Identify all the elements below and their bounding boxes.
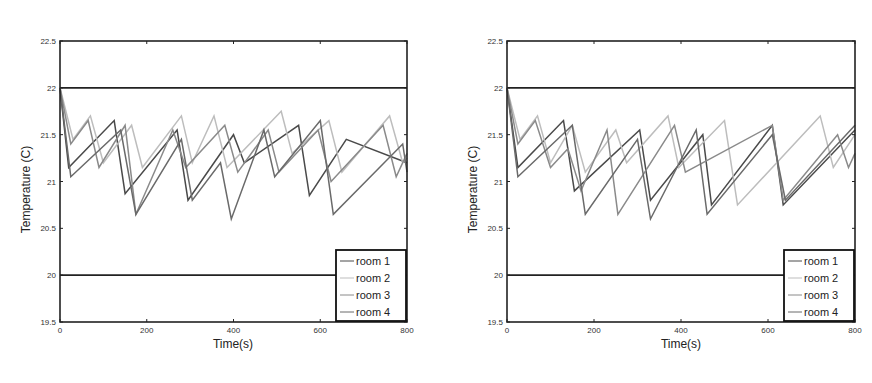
chart-canvas: 19.52020.52121.52222.50200400600800Time(… — [0, 0, 872, 383]
legend-item-label: room 3 — [804, 289, 838, 301]
legend-item-label: room 1 — [804, 255, 838, 267]
x-tick-label: 0 — [505, 326, 510, 335]
y-tick-label: 20 — [494, 271, 503, 280]
y-tick-label: 22.5 — [487, 37, 503, 46]
x-tick-label: 800 — [848, 326, 862, 335]
legend: room 1room 2room 3room 4 — [784, 250, 854, 321]
x-tick-label: 400 — [674, 326, 688, 335]
y-tick-label: 20.5 — [487, 224, 503, 233]
series-line-room-2 — [507, 88, 855, 205]
legend-item-label: room 4 — [804, 306, 838, 318]
legend-item-label: room 2 — [804, 272, 838, 284]
x-tick-label: 600 — [761, 326, 775, 335]
x-tick-label: 200 — [587, 326, 601, 335]
y-axis-label: Temperature (C) — [466, 146, 480, 233]
right-temperature-chart: 19.52020.52121.52222.50200400600800Time(… — [0, 0, 436, 383]
y-tick-label: 19.5 — [487, 318, 503, 327]
y-tick-label: 21.5 — [487, 131, 503, 140]
y-tick-label: 22 — [494, 84, 503, 93]
x-axis-label: Time(s) — [661, 337, 701, 351]
y-tick-label: 21 — [494, 178, 503, 187]
series-line-room-3 — [507, 88, 855, 215]
